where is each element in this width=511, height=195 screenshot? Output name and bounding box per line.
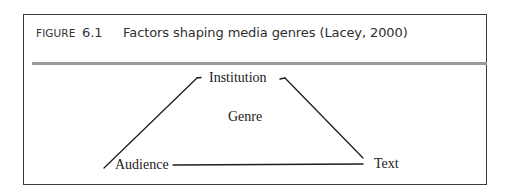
node-institution: Institution [209, 70, 267, 85]
edge-line-bottom [173, 164, 363, 165]
node-text: Text [374, 156, 399, 171]
edge-tick-left [197, 78, 201, 79]
edge-audience-text [173, 164, 363, 165]
genre-triangle-diagram: Institution Audience Text Genre [0, 0, 511, 195]
edge-line-left [104, 78, 197, 168]
edge-audience-institution [104, 78, 201, 169]
edge-tick-right [280, 78, 285, 79]
edge-line-right [285, 78, 363, 158]
node-audience: Audience [115, 157, 169, 172]
center-label-genre: Genre [228, 109, 262, 124]
edge-institution-text [280, 78, 363, 158]
